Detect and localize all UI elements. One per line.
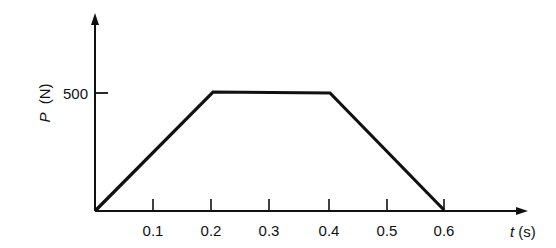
y-axis-label: P (N) bbox=[36, 83, 53, 122]
x-tick-label: 0.3 bbox=[259, 222, 280, 239]
force-time-chart: 500 P (N) 0.1 0.2 0.3 0.4 0.5 0.6 t (s) bbox=[0, 0, 556, 248]
x-ticks bbox=[153, 199, 444, 211]
force-curve bbox=[96, 92, 444, 210]
x-tick-label: 0.1 bbox=[143, 222, 164, 239]
x-axis-symbol: t bbox=[510, 223, 515, 240]
y-axis-arrow-icon bbox=[91, 13, 99, 25]
x-tick-label: 0.5 bbox=[377, 222, 398, 239]
x-tick-label: 0.6 bbox=[434, 222, 455, 239]
y-axis-symbol: P bbox=[36, 112, 53, 122]
svg-text:P (N): P (N) bbox=[36, 83, 53, 122]
y-axis-unit: (N) bbox=[36, 83, 53, 104]
x-axis-label: t (s) bbox=[510, 223, 536, 240]
x-tick-label: 0.2 bbox=[201, 222, 222, 239]
x-tick-labels: 0.1 0.2 0.3 0.4 0.5 0.6 bbox=[143, 222, 455, 239]
x-axis-arrow-icon bbox=[516, 207, 528, 215]
y-tick-label-500: 500 bbox=[63, 85, 88, 102]
x-tick-label: 0.4 bbox=[319, 222, 340, 239]
x-axis-unit: (s) bbox=[518, 223, 536, 240]
